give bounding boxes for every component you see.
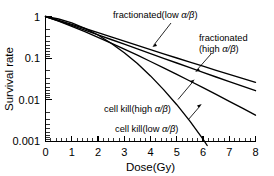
annot-fractionated-high-line2: (high α/β) bbox=[199, 44, 239, 54]
leader-fractionated-high bbox=[195, 54, 211, 72]
leader-fractionated-low bbox=[152, 23, 171, 47]
y-tick-label-0.01: 0.01 bbox=[19, 94, 40, 106]
x-tick-label-7: 7 bbox=[226, 146, 232, 158]
y-tick-label-0.001: 0.001 bbox=[12, 135, 40, 147]
curve-cellkill-high bbox=[46, 17, 256, 116]
leader-cellkill-low bbox=[188, 104, 202, 120]
x-tick-label-5: 5 bbox=[174, 146, 180, 158]
x-tick-label-0: 0 bbox=[42, 146, 48, 158]
x-tick-label-2: 2 bbox=[95, 146, 101, 158]
x-tick-label-6: 6 bbox=[200, 146, 206, 158]
survival-curve-figure: 1 0.1 0.01 0.001 0 1 2 3 4 5 6 7 8 Dose(… bbox=[0, 0, 274, 176]
x-axis-title: Dose(Gy) bbox=[126, 161, 175, 173]
annot-cellkill-low-pre: cell kill(low bbox=[115, 124, 162, 134]
annot-fractionated-low-greek: α/β bbox=[181, 10, 195, 20]
y-axis-title: Survival rate bbox=[3, 47, 15, 111]
annot-cellkill-low-greek: α/β bbox=[162, 124, 176, 134]
annot-cellkill-high-pre: cell kill(high bbox=[104, 104, 155, 114]
y-tick-label-0.1: 0.1 bbox=[25, 52, 40, 64]
annot-cellkill-high-post: ) bbox=[168, 104, 171, 114]
x-tick-label-3: 3 bbox=[121, 146, 127, 158]
annot-fractionated-low: fractionated(low α/β) bbox=[113, 10, 198, 20]
annot-cellkill-high-greek: α/β bbox=[155, 104, 169, 114]
annot-fractionated-high-post: ) bbox=[235, 44, 238, 54]
annot-fractionated-high-line1: fractionated bbox=[199, 33, 248, 43]
annot-fractionated-low-post: ) bbox=[194, 10, 197, 20]
y-minor-ticks bbox=[46, 29, 50, 140]
annot-fractionated-high-pre: (high bbox=[199, 44, 222, 54]
annot-cellkill-low: cell kill(low α/β) bbox=[115, 124, 178, 134]
annot-fractionated-high-greek: α/β bbox=[222, 44, 236, 54]
annot-cellkill-high: cell kill(high α/β) bbox=[104, 104, 171, 114]
annot-cellkill-low-post: ) bbox=[175, 124, 178, 134]
y-major-ticks bbox=[46, 17, 52, 142]
y-tick-label-1: 1 bbox=[34, 11, 40, 23]
x-tick-label-8: 8 bbox=[252, 146, 258, 158]
chart-svg: 1 0.1 0.01 0.001 0 1 2 3 4 5 6 7 8 Dose(… bbox=[0, 0, 274, 176]
x-tick-label-1: 1 bbox=[69, 146, 75, 158]
x-tick-label-4: 4 bbox=[147, 146, 153, 158]
annot-fractionated-low-pre: fractionated(low bbox=[113, 10, 181, 20]
leader-cellkill-high bbox=[178, 79, 195, 99]
